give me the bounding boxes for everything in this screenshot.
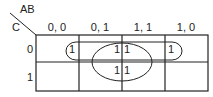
col-header-00: 0, 0	[48, 21, 66, 33]
col-header-01: 0, 1	[91, 21, 109, 33]
cell-r1-c11: 1	[124, 64, 130, 76]
col-variable-label: AB	[20, 3, 35, 15]
row-variable-label: C	[12, 21, 20, 33]
row-header-0: 0	[27, 43, 33, 55]
row-header-1: 1	[27, 71, 33, 83]
cell-r0-c10: 1	[168, 43, 174, 55]
cell-r0-c11-left: 1	[114, 43, 120, 55]
col-header-10: 1, 0	[177, 21, 195, 33]
karnaugh-map: AB C 0, 0 0, 1 1, 1 1, 0 0 1 1 1 1 1 1 1	[0, 0, 213, 97]
cell-r0-c01: 1	[69, 43, 75, 55]
cell-r0-c11: 1	[124, 43, 130, 55]
cell-r1-c01: 1	[114, 64, 120, 76]
col-header-11: 1, 1	[134, 21, 152, 33]
